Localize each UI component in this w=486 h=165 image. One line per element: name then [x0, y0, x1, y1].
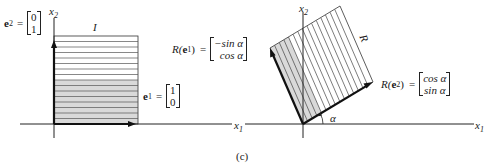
left-x2-axis-label: x2 [49, 5, 58, 22]
e2-definition: e2 = 0 1 [4, 11, 41, 35]
R-e1-definition: R(e1) = −sin α cos α [172, 37, 247, 61]
e1-column-vector: 1 0 [166, 84, 180, 108]
R-e2-column-vector: cos α sin α [419, 72, 450, 96]
R-e2-definition: R(e2) = cos α sin α [381, 72, 450, 96]
e1-definition: e1 = 1 0 [143, 84, 180, 108]
right-x2-axis-label: x2 [299, 2, 308, 19]
right-x1-axis-label: x1 [475, 119, 484, 136]
region-I-label: I [93, 21, 97, 33]
R-e1-column-vector: −sin α cos α [210, 37, 247, 61]
left-x1-axis-label: x1 [234, 119, 243, 136]
angle-alpha-label: α [330, 112, 336, 124]
left-panel [20, 18, 232, 138]
e2-column-vector: 0 1 [27, 11, 41, 35]
figure-caption: (c) [236, 150, 248, 162]
